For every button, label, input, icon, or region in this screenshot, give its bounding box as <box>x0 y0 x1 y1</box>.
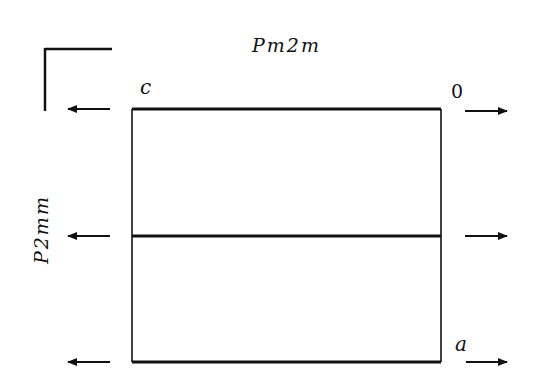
top-title-label: Pm2m <box>251 34 321 56</box>
side-title-label: P2mm <box>30 195 52 265</box>
left-arrows <box>68 109 110 362</box>
right-arrows <box>465 111 507 362</box>
corner-label-c: c <box>140 75 151 99</box>
corner-label-a: a <box>455 332 467 356</box>
unit-cell-rectangle <box>132 109 441 362</box>
corner-label-origin: 0 <box>451 80 463 102</box>
symmetry-diagram: Pm2m c 0 a P2mm <box>0 0 536 391</box>
corner-bracket-icon <box>45 48 112 111</box>
